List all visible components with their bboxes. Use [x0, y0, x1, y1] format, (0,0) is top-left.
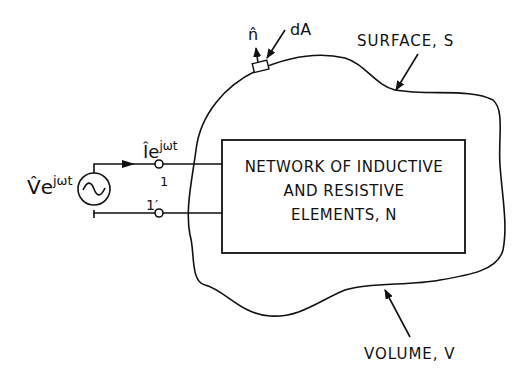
network-label-line-1: NETWORK OF INDUCTIVE [245, 158, 444, 176]
network-label-line-2: AND RESISTIVE [284, 182, 405, 200]
surface-label: SURFACE, S [357, 32, 454, 50]
volume-pointer-arrow [385, 290, 410, 337]
dA-pointer-arrow [267, 30, 285, 58]
network-label-line-3: ELEMENTS, N [291, 206, 397, 224]
terminal-1-label: 1 [160, 174, 168, 189]
current-label: Îejωt [142, 139, 178, 162]
surface-pointer-arrow [396, 54, 418, 90]
normal-arrow [256, 48, 258, 63]
current-arrow [122, 160, 135, 168]
terminal-1-prime-label: 1′ [146, 197, 158, 213]
diagram-canvas: V̂ejωt Îejωt 1 1′ n̂ dA SURFACE, S VOLUM… [0, 0, 532, 385]
area-element-dA [252, 60, 269, 72]
volume-label: VOLUME, V [364, 345, 456, 363]
dA-label: dA [290, 20, 311, 39]
source-voltage-label: V̂ejωt [27, 173, 73, 199]
normal-label: n̂ [248, 25, 258, 44]
